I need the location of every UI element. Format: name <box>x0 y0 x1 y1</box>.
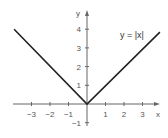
x-tick-label: 1 <box>103 110 108 119</box>
x-ticks: −3−2−1123 <box>27 102 145 119</box>
x-tick-label: −3 <box>27 110 37 119</box>
y-tick-label: −1 <box>72 119 82 128</box>
x-axis-arrow-icon <box>154 102 160 106</box>
y-tick-label: 1 <box>77 81 82 90</box>
plot-area: −3−2−1123 −11234 x y y = |x| <box>0 0 168 138</box>
y-tick-label: 2 <box>77 63 82 72</box>
function-annotation: y = |x| <box>120 30 144 40</box>
y-tick-label: 4 <box>77 25 82 34</box>
x-tick-label: 2 <box>122 110 127 119</box>
y-tick-label: 3 <box>77 44 82 53</box>
chart: −3−2−1123 −11234 x y y = |x| <box>0 0 168 138</box>
x-axis-label: x <box>156 110 160 119</box>
x-tick-label: −1 <box>64 110 74 119</box>
x-tick-label: −2 <box>45 110 55 119</box>
y-axis-arrow-icon <box>85 10 89 16</box>
y-axis-label: y <box>76 9 80 18</box>
x-tick-label: 3 <box>140 110 145 119</box>
y-ticks: −11234 <box>72 25 89 128</box>
